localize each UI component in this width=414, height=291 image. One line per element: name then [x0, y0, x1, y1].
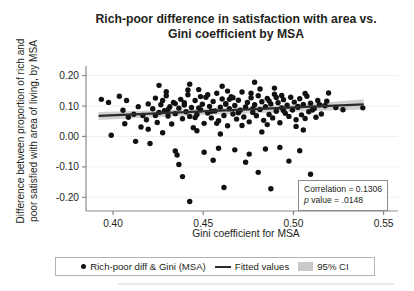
x-axis-label: Gini coefficient for MSA	[86, 228, 406, 239]
plot-area: 0.400.450.500.550.200.100.00-0.10-0.20	[0, 0, 414, 291]
chart-legend: Rich-poor diff & Gini (MSA) Fitted value…	[55, 257, 375, 276]
svg-text:0.00: 0.00	[59, 131, 79, 142]
chart-figure: Rich-poor difference in satisfaction wit…	[0, 0, 414, 291]
legend-label-scatter: Rich-poor diff & Gini (MSA)	[90, 261, 206, 272]
scatter-dot-icon	[81, 264, 86, 269]
svg-text:0.10: 0.10	[59, 101, 79, 112]
svg-text:0.20: 0.20	[59, 70, 79, 81]
legend-item-scatter: Rich-poor diff & Gini (MSA)	[81, 261, 206, 272]
correlation-text: Correlation = 0.1306	[304, 184, 382, 195]
page-edge-artifact	[118, 283, 394, 285]
svg-text:-0.10: -0.10	[56, 161, 80, 172]
svg-text:-0.20: -0.20	[56, 192, 80, 203]
statistics-annotation: Correlation = 0.1306 p value = .0148	[298, 180, 388, 211]
legend-item-fit: Fitted values	[215, 261, 289, 272]
legend-item-ci: 95% CI	[298, 261, 348, 272]
p-value-text: p value = .0148	[304, 195, 382, 206]
legend-label-ci: 95% CI	[317, 261, 348, 272]
fit-line-icon	[215, 266, 231, 268]
legend-label-fit: Fitted values	[235, 261, 289, 272]
p-value-rest: value = .0148	[309, 195, 363, 205]
ci-band-swatch-icon	[298, 262, 313, 271]
